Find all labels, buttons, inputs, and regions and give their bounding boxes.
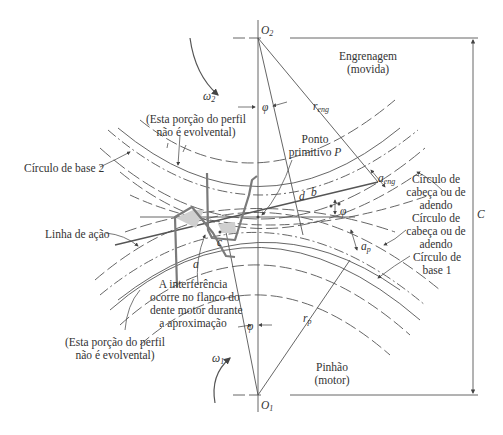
center-o1-label: O1 — [261, 399, 273, 412]
r-p-label: rp — [303, 312, 311, 325]
pinion-circles — [95, 209, 440, 356]
phi-top-label: φ — [262, 101, 268, 114]
a-p-label: ap — [361, 240, 371, 253]
omega1-label: ω1 — [212, 352, 224, 365]
omega2-label: ω2 — [203, 90, 215, 103]
addendum-circle-pinion-label: Círculo de cabeça ou de adendo — [405, 212, 467, 251]
point-b-label: b — [311, 186, 317, 199]
phi-right-label: φ — [340, 205, 346, 218]
phi-bottom-label: φ — [247, 320, 253, 333]
base-circle-2-label: Círculo de base 2 — [24, 162, 104, 175]
point-c-label: c — [217, 236, 222, 249]
point-a-label: a — [193, 258, 199, 271]
center-o2-label: O2 — [261, 24, 273, 37]
center-distance-label: C — [477, 208, 485, 221]
a-eng-label: aeng — [378, 172, 395, 185]
tooth-profiles — [175, 173, 257, 287]
pitch-point-label: Ponto primitivo P — [285, 133, 345, 159]
point-d — [330, 205, 333, 208]
point-c — [219, 231, 222, 234]
gear-label: Engrenagem (movida) — [318, 50, 418, 76]
r-eng-label: reng — [313, 100, 329, 113]
not-involute-top-label: (Esta porção do perfil não é evolvental) — [143, 113, 249, 139]
not-involute-bottom-label: (Esta porção do perfil não é evolvental) — [62, 336, 168, 362]
addendum-circle-gear-label: Círculo de cabeça ou de adendo — [405, 173, 467, 212]
omega2-arrow — [190, 38, 218, 95]
pitch-point — [257, 216, 260, 219]
pinion-label: Pinhão (motor) — [297, 361, 367, 387]
point-d-label: d — [299, 190, 305, 203]
line-of-action-label: Linha de ação — [45, 228, 110, 241]
base-circle-1-label: Círculo de base 1 — [408, 251, 466, 277]
line-of-action — [115, 182, 378, 245]
interference-label: A interferência ocorre no flanco do dent… — [150, 278, 236, 330]
